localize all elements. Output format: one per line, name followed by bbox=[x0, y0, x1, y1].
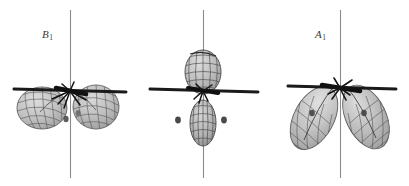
atom-dot bbox=[361, 110, 367, 117]
orbital-panel-a1: A1 bbox=[136, 0, 272, 186]
atom-dot bbox=[221, 117, 227, 124]
orbital-lobe-lower bbox=[190, 100, 216, 147]
orbital-figure: B1 bbox=[0, 0, 409, 186]
atom-dot bbox=[309, 110, 315, 117]
panel-label-b1-subscript: 1 bbox=[49, 33, 53, 42]
panel-label-b1: B1 bbox=[42, 28, 53, 40]
panel-label-b1-letter: B bbox=[42, 28, 49, 40]
orbital-panel-b2: B2 bbox=[272, 0, 409, 186]
atom-dot bbox=[175, 117, 181, 124]
atom-dot bbox=[63, 116, 68, 122]
atom-dot bbox=[76, 110, 81, 116]
orbital-panel-b1: B1 bbox=[0, 0, 136, 186]
